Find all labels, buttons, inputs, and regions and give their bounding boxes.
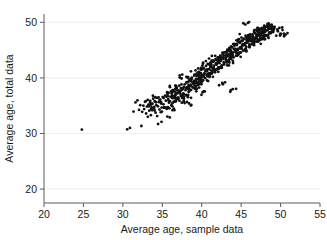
scatter-point: [267, 22, 270, 25]
scatter-point: [199, 75, 202, 78]
scatter-point: [256, 37, 259, 40]
scatter-point: [167, 92, 170, 95]
scatter-point: [180, 83, 183, 86]
scatter-point: [264, 26, 267, 29]
scatter-point: [217, 70, 220, 73]
scatter-point: [224, 81, 227, 84]
scatter-point: [202, 68, 205, 71]
y-tick-label: 40: [25, 72, 37, 84]
scatter-point: [145, 112, 148, 115]
scatter-point: [264, 30, 267, 33]
x-tick-label: 20: [38, 208, 50, 220]
scatter-point: [188, 89, 191, 92]
scatter-point: [158, 108, 161, 111]
scatter-point: [204, 70, 207, 73]
scatter-point: [193, 82, 196, 85]
x-tick-label: 30: [117, 208, 129, 220]
scatter-point: [239, 51, 242, 54]
scatter-point: [177, 97, 180, 100]
scatter-points-group: [80, 21, 288, 131]
scatter-point: [202, 75, 205, 78]
scatter-point: [169, 86, 172, 89]
scatter-point: [261, 31, 264, 34]
scatter-point: [167, 99, 170, 102]
scatter-point: [213, 68, 216, 71]
scatter-point: [152, 94, 155, 97]
scatter-point: [142, 104, 145, 107]
scatter-point: [218, 56, 221, 59]
scatter-point: [157, 123, 160, 126]
scatter-point: [138, 108, 141, 111]
scatter-point: [276, 28, 279, 31]
scatter-point: [281, 26, 284, 29]
scatter-point: [226, 49, 229, 52]
scatter-point: [226, 54, 229, 57]
scatter-point: [168, 107, 171, 110]
scatter-point: [235, 43, 238, 46]
scatter-point: [228, 64, 231, 67]
scatter-point: [189, 84, 192, 87]
scatter-point: [263, 38, 266, 41]
scatter-point: [200, 80, 203, 83]
scatter-point: [232, 43, 235, 46]
scatter-point: [231, 54, 234, 57]
scatter-point: [186, 101, 189, 104]
scatter-point: [194, 69, 197, 72]
scatter-point: [261, 26, 264, 29]
scatter-point: [244, 44, 247, 47]
scatter-point: [275, 34, 278, 37]
x-tick-label: 50: [275, 208, 287, 220]
scatter-point: [150, 103, 153, 106]
scatter-point: [257, 31, 260, 34]
scatter-point: [190, 80, 193, 83]
scatter-point: [259, 38, 262, 41]
x-axis-title: Average age, sample data: [121, 223, 244, 235]
scatter-point: [197, 73, 200, 76]
scatter-point: [286, 32, 289, 35]
scatter-point: [167, 95, 170, 98]
scatter-point: [132, 110, 135, 113]
scatter-point: [281, 29, 284, 32]
scatter-point: [272, 26, 275, 29]
scatter-point: [190, 96, 193, 99]
scatter-point: [235, 87, 238, 90]
scatter-point: [242, 22, 245, 25]
scatter-point: [171, 97, 174, 100]
scatter-point: [175, 92, 178, 95]
scatter-point: [272, 28, 275, 31]
scatter-point: [214, 54, 217, 57]
scatter-point: [80, 128, 83, 131]
scatter-point: [157, 96, 160, 99]
scatter-point: [267, 26, 270, 29]
scatter-point: [164, 99, 167, 102]
scatter-point: [160, 120, 163, 123]
scatter-point: [126, 128, 129, 131]
scatter-point: [201, 64, 204, 67]
scatter-point: [240, 36, 243, 39]
scatter-point: [181, 73, 184, 76]
scatter-point: [160, 101, 163, 104]
scatter-point: [146, 115, 149, 118]
scatter-point: [193, 86, 196, 89]
scatter-point: [202, 61, 205, 64]
scatter-point: [218, 84, 221, 87]
scatter-point: [226, 59, 229, 62]
scatter-point: [215, 62, 218, 65]
scatter-point: [208, 57, 211, 60]
scatter-point: [190, 78, 193, 81]
scatter-point: [155, 101, 158, 104]
plot-canvas: 203040502025303540455055Average age, sam…: [0, 0, 327, 240]
x-tick-label: 35: [156, 208, 168, 220]
y-axis-title: Average age, total data: [3, 54, 15, 163]
scatter-point: [197, 67, 200, 70]
scatter-point: [195, 77, 198, 80]
scatter-plot-figure: 203040502025303540455055Average age, sam…: [0, 0, 327, 240]
scatter-point: [210, 55, 213, 58]
scatter-point: [268, 31, 271, 34]
scatter-point: [236, 54, 239, 57]
scatter-point: [222, 61, 225, 64]
y-tick-label: 50: [25, 16, 37, 28]
scatter-point: [172, 107, 175, 110]
scatter-point: [259, 42, 262, 45]
scatter-point: [144, 100, 147, 103]
